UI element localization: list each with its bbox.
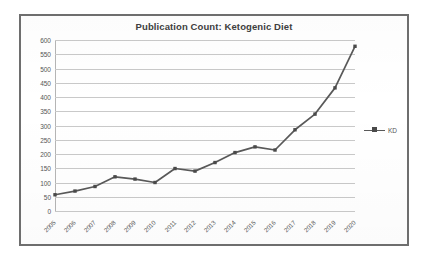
x-axis-tick-label: 2018 — [302, 219, 317, 234]
data-point-marker — [273, 148, 276, 151]
x-axis-tick-label: 2009 — [122, 219, 137, 234]
y-axis-tick-label: 200 — [40, 151, 51, 158]
x-axis-tick-label: 2020 — [342, 219, 357, 234]
x-axis-tick-label: 2017 — [282, 219, 297, 234]
y-axis-tick-label: 250 — [40, 136, 51, 143]
y-axis-tick-label: 450 — [40, 79, 51, 86]
x-axis-tick-label: 2013 — [202, 219, 217, 234]
data-point-marker — [353, 45, 356, 48]
y-axis-tick-label: 550 — [40, 51, 51, 58]
data-point-marker — [153, 181, 156, 184]
y-axis-tick-label: 100 — [40, 179, 51, 186]
data-point-marker — [133, 177, 136, 180]
chart-legend: KD — [364, 126, 397, 134]
x-axis-tick-label: 2015 — [242, 219, 257, 234]
data-point-marker — [293, 128, 296, 131]
series-line-kd — [55, 40, 355, 211]
legend-marker-icon — [364, 126, 385, 134]
x-axis-tick-label: 2008 — [102, 219, 117, 234]
data-point-marker — [313, 112, 316, 115]
chart-container: Publication Count: Ketogenic Diet 050100… — [19, 14, 409, 246]
x-axis-tick-label: 2005 — [42, 219, 57, 234]
x-axis-tick-label: 2016 — [262, 219, 277, 234]
y-axis-tick-label: 300 — [40, 122, 51, 129]
y-axis-tick-label: 150 — [40, 165, 51, 172]
chart-title: Publication Count: Ketogenic Diet — [21, 21, 407, 32]
data-point-marker — [233, 151, 236, 154]
legend-label-kd: KD — [388, 127, 397, 134]
gridline — [55, 211, 355, 212]
data-point-marker — [193, 169, 196, 172]
data-point-marker — [253, 145, 256, 148]
x-axis-tick-label: 2007 — [82, 219, 97, 234]
x-axis-tick-label: 2011 — [163, 219, 177, 233]
y-axis-tick-label: 400 — [40, 94, 51, 101]
x-axis-tick-label: 2010 — [142, 219, 157, 234]
y-axis-tick-label: 600 — [40, 37, 51, 44]
x-axis-tick-label: 2012 — [182, 219, 197, 234]
data-point-marker — [113, 175, 116, 178]
data-point-marker — [93, 185, 96, 188]
data-point-marker — [73, 189, 76, 192]
y-axis-tick-label: 50 — [44, 193, 51, 200]
chart-plot-wrapper: Publication Count: Ketogenic Diet 050100… — [21, 16, 407, 244]
x-axis-tick-label: 2019 — [322, 219, 337, 234]
y-axis-tick-label: 350 — [40, 108, 51, 115]
data-point-marker — [173, 167, 176, 170]
x-axis-tick-label: 2014 — [222, 219, 237, 234]
plot-area: 050100150200250300350400450500550600 200… — [55, 40, 355, 211]
data-point-marker — [53, 193, 56, 196]
y-axis-tick-label: 0 — [47, 208, 51, 215]
y-axis-tick-label: 500 — [40, 65, 51, 72]
data-point-marker — [333, 86, 336, 89]
x-axis-tick-label: 2006 — [62, 219, 77, 234]
data-point-marker — [213, 161, 216, 164]
